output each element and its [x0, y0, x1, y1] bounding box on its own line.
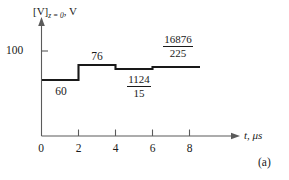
- fraction-denominator: 15: [127, 88, 151, 100]
- step-label-76: 76: [86, 51, 108, 63]
- y-tick-label-100: 100: [6, 45, 23, 57]
- x-tick-label-6: 6: [145, 143, 161, 155]
- x-tick-label-8: 8: [182, 143, 198, 155]
- x-tick-label-4: 4: [108, 143, 124, 155]
- fraction-numerator: 1124: [127, 74, 151, 86]
- y-axis-title-main: [V]: [33, 5, 48, 17]
- x-tick-label-2: 2: [71, 143, 87, 155]
- x-axis-arrow-icon: [231, 133, 240, 140]
- step-label-60: 60: [50, 86, 72, 98]
- x-axis-title: t, μs: [244, 130, 262, 141]
- y-axis-title: [V]z = 0, V: [33, 6, 77, 20]
- fraction-1124-15: 1124 15: [127, 74, 151, 100]
- figure-caption: (a): [258, 157, 271, 169]
- figure-container: [V]z = 0, V 100 0 2 4 6 8 t, μs 60 76 11…: [0, 0, 289, 180]
- fraction-16876-225: 16876 225: [163, 34, 193, 60]
- fraction-denominator: 225: [163, 48, 193, 60]
- y-axis-title-unit: , V: [64, 5, 77, 17]
- step-label-16876-225: 16876 225: [152, 34, 204, 60]
- fraction-numerator: 16876: [163, 34, 193, 46]
- step-label-1124-15: 1124 15: [119, 74, 159, 100]
- y-axis-title-subscript: z = 0: [48, 11, 63, 20]
- x-tick-label-0: 0: [33, 143, 49, 155]
